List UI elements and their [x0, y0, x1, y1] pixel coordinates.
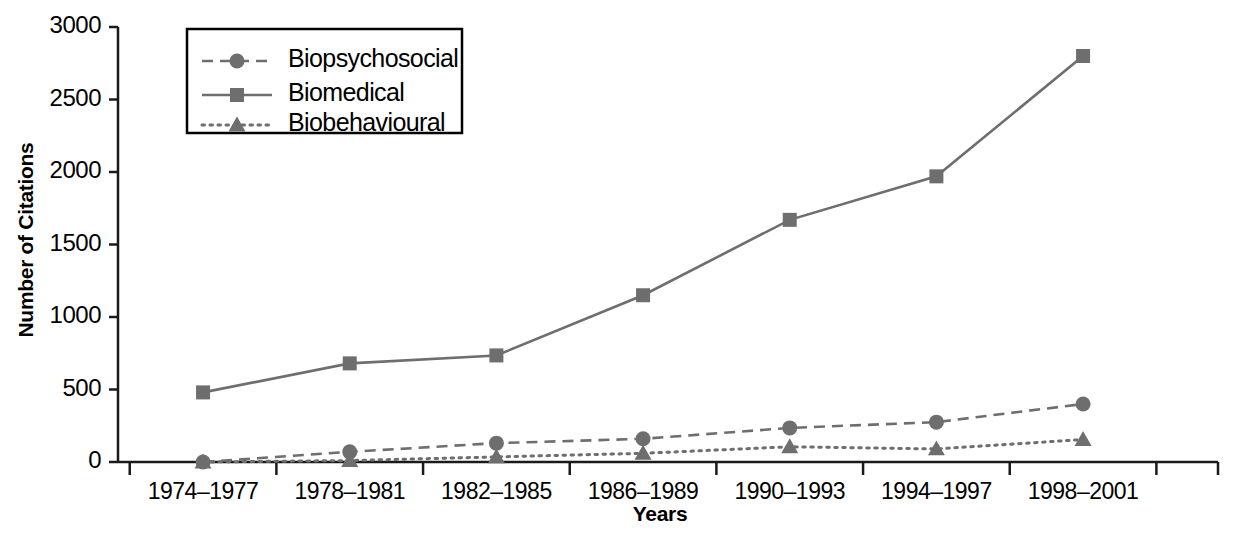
- x-tick-label: 1998–2001: [1003, 478, 1163, 505]
- x-tick-label: 1986–1989: [563, 478, 723, 505]
- citations-line-chart: Number of Citations Years 05001000150020…: [0, 0, 1242, 544]
- legend-label-biomedical: Biomedical: [288, 78, 404, 107]
- y-axis-ticks: [109, 27, 118, 462]
- x-axis-title: Years: [560, 502, 760, 526]
- y-tick-label: 3000: [0, 11, 101, 39]
- x-tick-label: 1974–1977: [123, 478, 283, 505]
- chart-plot-area: [0, 0, 1242, 544]
- legend-label-biobehavioural: Biobehavioural: [288, 108, 445, 137]
- y-tick-label: 1500: [0, 229, 101, 257]
- y-tick-label: 500: [0, 374, 101, 402]
- x-tick-label: 1978–1981: [270, 478, 430, 505]
- y-tick-label: 0: [0, 446, 101, 474]
- x-axis-ticks: [130, 462, 1218, 475]
- x-tick-label: 1994–1997: [856, 478, 1016, 505]
- x-tick-label: 1990–1993: [710, 478, 870, 505]
- x-tick-label: 1982–1985: [416, 478, 576, 505]
- y-tick-label: 1000: [0, 301, 101, 329]
- y-tick-label: 2500: [0, 84, 101, 112]
- y-tick-label: 2000: [0, 156, 101, 184]
- legend-label-biopsychosocial: Biopsychosocial: [288, 44, 458, 73]
